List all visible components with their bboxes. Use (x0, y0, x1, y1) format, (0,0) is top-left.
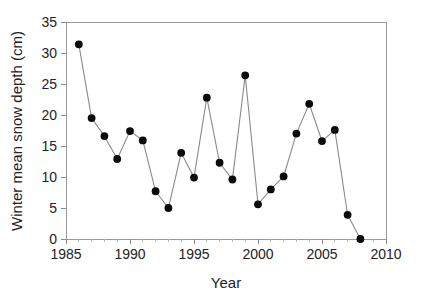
data-point (280, 172, 288, 180)
x-tick-label: 1985 (50, 246, 81, 262)
data-point (165, 204, 173, 212)
data-point (293, 130, 301, 138)
data-point (152, 187, 160, 195)
data-point (113, 155, 121, 163)
y-tick-label: 10 (41, 169, 57, 185)
data-point (216, 159, 224, 167)
x-tick-label: 2010 (370, 246, 401, 262)
data-point (101, 132, 109, 140)
y-tick-label: 25 (41, 76, 57, 92)
data-point (318, 137, 326, 145)
x-tick-label: 1995 (178, 246, 209, 262)
data-point (126, 127, 134, 135)
data-point (203, 94, 211, 102)
series-markers-winter-mean-snow-depth (75, 40, 364, 242)
data-point (267, 186, 275, 194)
data-point (331, 126, 339, 134)
data-point (241, 71, 249, 79)
chart-figure: 198519901995200020052010 05101520253035 … (0, 0, 427, 303)
data-point (75, 40, 83, 48)
y-axis-tick-labels: 05101520253035 (41, 14, 57, 247)
y-tick-label: 0 (49, 231, 57, 247)
y-tick-label: 20 (41, 107, 57, 123)
data-point (254, 200, 262, 208)
y-tick-label: 15 (41, 138, 57, 154)
x-tick-label: 2000 (242, 246, 273, 262)
y-axis-ticks (61, 22, 66, 239)
data-point (177, 149, 185, 157)
snow-depth-line-chart: 198519901995200020052010 05101520253035 … (0, 0, 427, 303)
y-tick-label: 35 (41, 14, 57, 30)
data-point (139, 137, 147, 145)
data-point (229, 176, 237, 184)
data-point (344, 211, 352, 219)
data-point (88, 114, 96, 122)
y-tick-label: 5 (49, 200, 57, 216)
data-point (190, 174, 198, 182)
x-axis-ticks (66, 239, 386, 244)
y-axis-title: Winter mean snow depth (cm) (8, 31, 25, 231)
x-axis-title: Year (211, 274, 241, 291)
x-axis-tick-labels: 198519901995200020052010 (50, 246, 401, 262)
x-tick-label: 2005 (306, 246, 337, 262)
y-tick-label: 30 (41, 45, 57, 61)
x-tick-label: 1990 (114, 246, 145, 262)
data-point (305, 100, 313, 108)
data-point (357, 235, 365, 243)
